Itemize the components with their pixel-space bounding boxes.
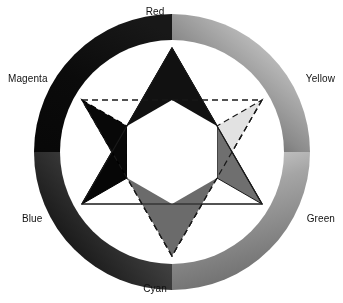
- wheel-label-red: Red: [146, 6, 165, 17]
- color-wheel-figure: [0, 0, 343, 303]
- wheel-label-yellow: Yellow: [306, 73, 335, 84]
- wheel-label-blue: Blue: [22, 213, 42, 224]
- wheel-label-cyan: Cyan: [143, 283, 167, 294]
- wheel-label-magenta: Magenta: [8, 73, 48, 84]
- wheel-label-green: Green: [307, 213, 335, 224]
